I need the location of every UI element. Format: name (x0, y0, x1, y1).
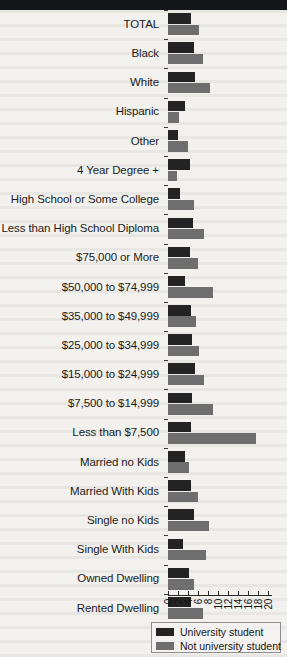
bar-university-student (168, 422, 191, 433)
chart-legend: University studentNot university student (151, 622, 281, 653)
axis-tick (198, 591, 199, 596)
horizontal-bar-chart: TOTALBlackWhiteHispanicOther4 Year Degre… (0, 10, 287, 595)
category-tick (164, 389, 168, 390)
category-label: Single no Kids (0, 515, 164, 527)
category-tick (164, 419, 168, 420)
category-tick (164, 477, 168, 478)
bar-university-student (168, 101, 185, 112)
bar-university-student (168, 451, 185, 462)
category-label: Hispanic (0, 106, 164, 118)
legend-swatch (156, 628, 174, 636)
bar-university-student (168, 539, 183, 550)
bar-not-university-student (168, 521, 209, 532)
bar-university-student (168, 72, 195, 83)
bar-not-university-student (168, 579, 194, 590)
bar-not-university-student (168, 54, 203, 65)
bar-not-university-student (168, 462, 189, 473)
bar-not-university-student (168, 83, 210, 94)
bar-group (164, 389, 283, 418)
bar-group (164, 39, 283, 68)
bar-not-university-student (168, 112, 179, 123)
category-label: Black (0, 48, 164, 60)
category-label: TOTAL (0, 19, 164, 31)
axis-tick (238, 591, 239, 596)
axis-tick-label: 20 (264, 599, 274, 610)
chart-row: Hispanic (0, 98, 287, 127)
bar-not-university-student (168, 171, 177, 182)
chart-row: Married With Kids (0, 477, 287, 506)
category-tick (164, 185, 168, 186)
bar-not-university-student (168, 200, 194, 211)
axis-tick (208, 591, 209, 596)
axis-tick (218, 591, 219, 596)
bar-group (164, 506, 283, 535)
bar-group (164, 98, 283, 127)
category-label: $50,000 to $74,999 (0, 282, 164, 294)
category-label: Married With Kids (0, 486, 164, 498)
axis-tick (228, 591, 229, 596)
chart-row: Less than $7,500 (0, 419, 287, 448)
axis-tick (248, 591, 249, 596)
axis-tick (168, 591, 169, 596)
bar-university-student (168, 188, 180, 199)
bar-group (164, 535, 283, 564)
bar-group (164, 448, 283, 477)
category-label: $35,000 to $49,999 (0, 311, 164, 323)
chart-row: Single With Kids (0, 535, 287, 564)
legend-swatch (156, 642, 174, 650)
legend-label: Not university student (180, 641, 281, 652)
x-axis-line: 02468101214161820 (168, 595, 272, 596)
bar-not-university-student (168, 404, 213, 415)
bar-group (164, 331, 283, 360)
category-label: Less than High School Diploma (0, 223, 164, 235)
category-label: Rented Dwelling (0, 603, 164, 615)
chart-row: $75,000 or More (0, 244, 287, 273)
bar-group (164, 214, 283, 243)
bar-not-university-student (168, 492, 198, 503)
bar-university-student (168, 42, 194, 53)
chart-row: Less than High School Diploma (0, 214, 287, 243)
bar-group (164, 302, 283, 331)
category-tick (164, 273, 168, 274)
bar-university-student (168, 568, 189, 579)
category-label: 4 Year Degree + (0, 165, 164, 177)
bar-group (164, 565, 283, 594)
category-tick (164, 214, 168, 215)
chart-row: Single no Kids (0, 506, 287, 535)
bar-not-university-student (168, 316, 196, 327)
category-tick (164, 331, 168, 332)
category-tick (164, 360, 168, 361)
legend-university-student: University student (156, 626, 276, 638)
category-label: Owned Dwelling (0, 573, 164, 585)
category-tick (164, 565, 168, 566)
legend-not-university-student: Not university student (156, 640, 276, 652)
bar-university-student (168, 218, 193, 229)
chart-row: Other (0, 127, 287, 156)
bar-group (164, 185, 283, 214)
bar-group (164, 273, 283, 302)
bar-group (164, 419, 283, 448)
chart-row: 4 Year Degree + (0, 156, 287, 185)
bar-not-university-student (168, 346, 199, 357)
bar-university-student (168, 13, 191, 24)
category-label: White (0, 77, 164, 89)
bar-group (164, 127, 283, 156)
bar-not-university-student (168, 25, 199, 36)
category-tick (164, 302, 168, 303)
bar-group (164, 244, 283, 273)
bar-group (164, 360, 283, 389)
chart-row: $50,000 to $74,999 (0, 273, 287, 302)
category-tick (164, 506, 168, 507)
legend-label: University student (180, 627, 263, 638)
bar-university-student (168, 363, 195, 374)
axis-tick (258, 591, 259, 596)
bar-not-university-student (168, 287, 213, 298)
category-label: High School or Some College (0, 194, 164, 206)
axis-tick (188, 591, 189, 596)
chart-row: White (0, 68, 287, 97)
chart-row: TOTAL (0, 10, 287, 39)
bar-not-university-student (168, 608, 203, 619)
chart-row: Black (0, 39, 287, 68)
chart-row: $25,000 to $34,999 (0, 331, 287, 360)
category-tick (164, 127, 168, 128)
